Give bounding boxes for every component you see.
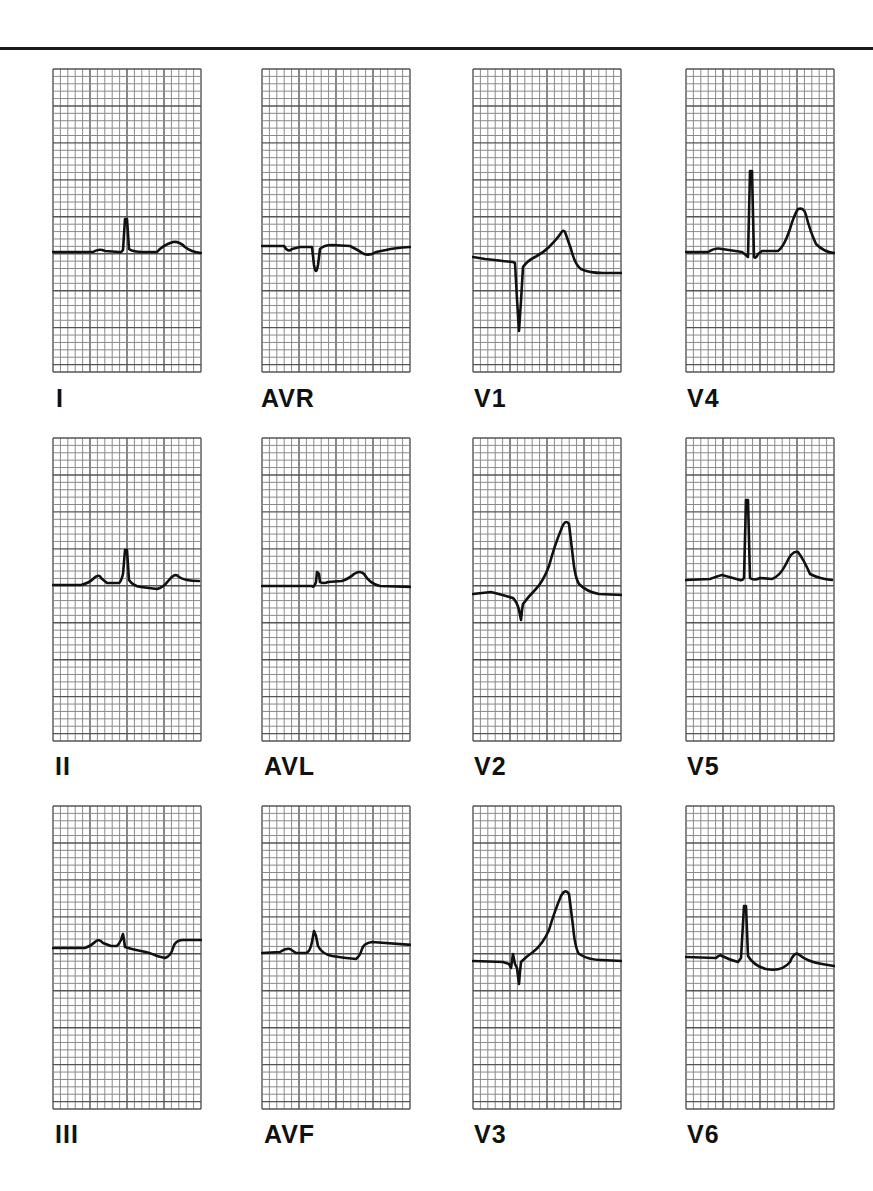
lead-label-i: I xyxy=(56,386,64,411)
top-divider-rule xyxy=(0,47,873,50)
lead-label-v1: V1 xyxy=(474,386,507,411)
lead-label-v3: V3 xyxy=(474,1122,507,1147)
lead-label-v2: V2 xyxy=(474,754,507,779)
lead-panel-v1 xyxy=(472,68,622,373)
lead-panel-v3 xyxy=(472,805,622,1110)
ecg-grid-avf xyxy=(261,805,411,1110)
lead-panel-ii xyxy=(52,437,202,742)
ecg-grid-v1 xyxy=(472,68,622,373)
lead-label-iii: III xyxy=(55,1122,79,1147)
lead-label-avr: AVR xyxy=(261,386,315,411)
lead-panel-i xyxy=(52,68,202,373)
lead-panel-v4 xyxy=(685,68,835,373)
lead-label-v4: V4 xyxy=(687,386,720,411)
ecg-grid-v3 xyxy=(472,805,622,1110)
ecg-grid-avr xyxy=(261,68,411,373)
ecg-grid-v4 xyxy=(685,68,835,373)
lead-label-avl: AVL xyxy=(264,754,315,779)
ecg-grid-ii xyxy=(52,437,202,742)
ecg-grid-v5 xyxy=(685,437,835,742)
lead-panel-avf xyxy=(261,805,411,1110)
ecg-grid-avl xyxy=(261,437,411,742)
lead-panel-avl xyxy=(261,437,411,742)
lead-panel-avr xyxy=(261,68,411,373)
ecg-grid-v2 xyxy=(472,437,622,742)
lead-panel-iii xyxy=(52,805,202,1110)
ecg-grid-i xyxy=(52,68,202,373)
lead-label-avf: AVF xyxy=(264,1122,315,1147)
lead-label-ii: II xyxy=(55,754,71,779)
ecg-grid-v6 xyxy=(685,805,835,1110)
lead-panel-v2 xyxy=(472,437,622,742)
lead-label-v6: V6 xyxy=(687,1122,720,1147)
lead-panel-v5 xyxy=(685,437,835,742)
ecg-grid-iii xyxy=(52,805,202,1110)
lead-panel-v6 xyxy=(685,805,835,1110)
lead-label-v5: V5 xyxy=(687,754,720,779)
